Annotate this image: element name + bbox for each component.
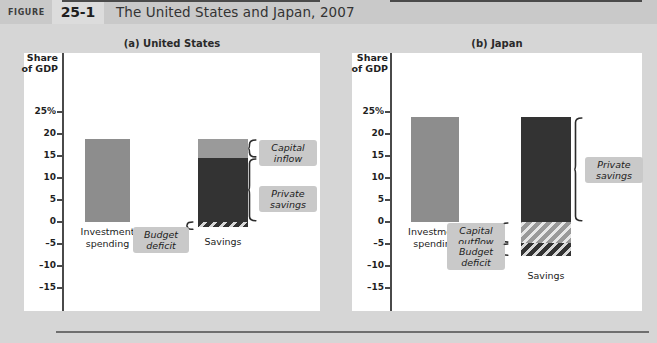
y-axis-tick-label-us-6: –5	[22, 238, 56, 248]
bar-private-savings-us	[198, 158, 248, 222]
y-axis-caption-japan: Share of GDP	[330, 52, 388, 74]
bar-budget-deficit-us	[198, 222, 248, 227]
y-axis-tick-label-us-7: –10	[22, 260, 56, 270]
figure-number: 25-1	[61, 4, 95, 20]
y-axis-tick-jp-0	[385, 111, 391, 113]
callout-capital-inflow-us-line2: inflow	[263, 153, 313, 164]
brace-private-savings-jp	[574, 117, 583, 222]
bar-capital-inflow-us	[198, 139, 248, 158]
callout-private-savings-jp-line2: savings	[589, 170, 639, 181]
zero-line-united-states	[62, 0, 320, 2]
callout-private-savings-us: Privatesavings	[259, 186, 317, 212]
brace-private-savings-us	[248, 158, 257, 222]
y-axis-tick-us-5	[57, 221, 63, 223]
callout-private-savings-us-line1: Private	[263, 188, 313, 199]
bar-label-savings-jp-line1: Savings	[501, 270, 591, 282]
callout-private-savings-jp-line1: Private	[589, 159, 639, 170]
y-axis-tick-label-us-5: 0	[22, 216, 56, 226]
zero-line-japan	[390, 0, 642, 2]
figure-title: The United States and Japan, 2007	[104, 4, 355, 20]
figure-header: FIGURE 25-1 The United States and Japan,…	[0, 0, 657, 24]
y-axis-tick-us-0	[57, 111, 63, 113]
figure-number-box: 25-1	[52, 0, 104, 24]
bar-investment-spending-us	[85, 139, 130, 222]
figure-word: FIGURE	[0, 8, 52, 17]
y-axis-tick-us-4	[57, 199, 63, 201]
y-axis-tick-label-jp-2: 15	[350, 150, 384, 160]
callout-capital-inflow-us: Capitalinflow	[259, 140, 317, 166]
callout-budget-deficit-us-line1: Budget	[137, 229, 185, 240]
y-axis-tick-label-jp-4: 5	[350, 194, 384, 204]
y-axis-caption-united-states: Share of GDP	[0, 52, 58, 74]
bar-label-savings-us-line1: Savings	[178, 236, 268, 248]
figure-bottom-rule	[56, 331, 649, 333]
y-axis-tick-label-jp-5: 0	[350, 216, 384, 226]
bar-budget-deficit-jp	[521, 243, 571, 256]
y-axis-caption-line1: Share	[330, 52, 388, 63]
brace-capital-inflow-us	[248, 139, 257, 158]
panel-title-united-states: (a) United States	[24, 38, 320, 49]
y-axis-tick-label-jp-0: 25%	[350, 106, 384, 116]
callout-budget-deficit-us: Budgetdeficit	[133, 227, 189, 253]
callout-budget-deficit-jp-line2: deficit	[451, 257, 501, 268]
bar-capital-outflow-jp	[521, 222, 571, 243]
callout-capital-inflow-us-line1: Capital	[263, 142, 313, 153]
y-axis-line-japan	[390, 53, 392, 311]
callout-capital-outflow-jp-line1: Capital	[451, 225, 501, 236]
callout-budget-deficit-jp-line1: Budget	[451, 246, 501, 257]
chart-panel-united-states	[24, 53, 320, 311]
callout-private-savings-jp: Privatesavings	[585, 157, 643, 183]
y-axis-tick-label-us-8: –15	[22, 282, 56, 292]
y-axis-tick-jp-1	[385, 133, 391, 135]
y-axis-tick-label-jp-3: 10	[350, 172, 384, 182]
y-axis-tick-us-8	[57, 287, 63, 289]
y-axis-tick-jp-4	[385, 199, 391, 201]
callout-budget-deficit-us-line2: deficit	[137, 240, 185, 251]
y-axis-tick-jp-8	[385, 287, 391, 289]
y-axis-tick-us-2	[57, 155, 63, 157]
y-axis-tick-jp-5	[385, 221, 391, 223]
y-axis-tick-label-us-0: 25%	[22, 106, 56, 116]
y-axis-caption-line2: of GDP	[330, 63, 388, 74]
y-axis-tick-us-7	[57, 265, 63, 267]
callout-budget-deficit-jp: Budgetdeficit	[447, 244, 505, 270]
bar-label-savings-us: Savings	[178, 236, 268, 248]
y-axis-caption-line2: of GDP	[0, 63, 58, 74]
y-axis-tick-label-jp-6: –5	[350, 238, 384, 248]
y-axis-tick-jp-2	[385, 155, 391, 157]
y-axis-line-united-states	[62, 53, 64, 311]
y-axis-tick-label-us-4: 5	[22, 194, 56, 204]
callout-private-savings-us-line2: savings	[263, 199, 313, 210]
bar-investment-spending-jp	[411, 117, 459, 222]
y-axis-tick-jp-3	[385, 177, 391, 179]
bar-private-savings-jp	[521, 117, 571, 222]
panel-title-japan: (b) Japan	[352, 38, 642, 49]
y-axis-tick-label-us-2: 15	[22, 150, 56, 160]
y-axis-tick-label-us-1: 20	[22, 128, 56, 138]
y-axis-tick-us-1	[57, 133, 63, 135]
bar-label-savings-jp: Savings	[501, 270, 591, 282]
y-axis-tick-us-3	[57, 177, 63, 179]
y-axis-tick-label-us-3: 10	[22, 172, 56, 182]
y-axis-tick-label-jp-1: 20	[350, 128, 384, 138]
y-axis-caption-line1: Share	[0, 52, 58, 63]
y-axis-tick-jp-7	[385, 265, 391, 267]
y-axis-tick-label-jp-8: –15	[350, 282, 384, 292]
y-axis-tick-label-jp-7: –10	[350, 260, 384, 270]
